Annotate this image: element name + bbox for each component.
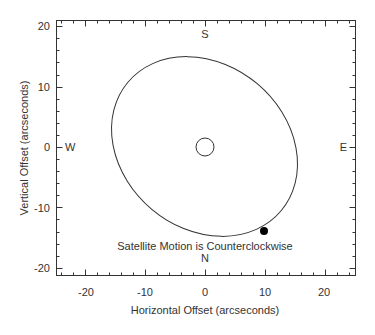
motion-note: Satellite Motion is Counterclockwise	[117, 240, 292, 252]
orbit-chart: 20 10 0 -10 -20 -20 -10 0 10 20 Horizont…	[0, 0, 375, 335]
central-object-circle	[196, 138, 214, 156]
y-axis-label: Vertical Offset (arcseconds)	[18, 81, 30, 216]
label-north: N	[201, 252, 209, 264]
x-axis-label: Horizontal Offset (arcseconds)	[131, 304, 279, 316]
xtick-10: 10	[259, 286, 271, 298]
xtick-20: 20	[318, 286, 330, 298]
xtick-neg20: -20	[78, 286, 94, 298]
ytick-10: 10	[38, 81, 50, 93]
xtick-0: 0	[202, 286, 208, 298]
satellite-dot	[260, 227, 268, 235]
ytick-neg20: -20	[34, 262, 50, 274]
ytick-20: 20	[38, 20, 50, 32]
label-west: W	[65, 141, 76, 153]
label-south: S	[201, 28, 208, 40]
ytick-0: 0	[44, 141, 50, 153]
ytick-neg10: -10	[34, 202, 50, 214]
xtick-neg10: -10	[137, 286, 153, 298]
orbit-ellipse	[75, 19, 334, 273]
label-east: E	[340, 141, 347, 153]
